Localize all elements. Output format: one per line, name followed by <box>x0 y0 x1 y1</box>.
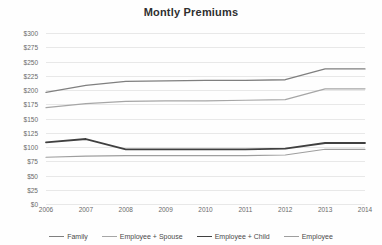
x-axis-tick-label: 2006 <box>39 206 53 213</box>
y-axis-tick-label: $0 <box>31 201 38 208</box>
legend-label: Employee + Child <box>215 233 270 240</box>
x-axis-tick-label: 2013 <box>318 206 332 213</box>
chart-container: Montly Premiums $300$275$250$225$200$175… <box>0 0 382 245</box>
legend-line-icon <box>284 236 299 237</box>
y-axis-tick-label: $225 <box>24 72 38 79</box>
y-axis-tick-label: $50 <box>27 172 38 179</box>
legend-line-icon <box>102 236 117 237</box>
x-axis-tick-label: 2014 <box>358 206 372 213</box>
x-axis-tick-label: 2011 <box>238 206 252 213</box>
y-axis-tick-label: $100 <box>24 144 38 151</box>
x-axis: 200620072008200920102011201220132014 <box>46 206 365 220</box>
legend-item-employee-spouse[interactable]: Employee + Spouse <box>102 233 183 240</box>
series-lines <box>46 33 365 204</box>
y-axis-tick-label: $250 <box>24 58 38 65</box>
gridline <box>46 204 365 205</box>
y-axis-tick-label: $25 <box>27 186 38 193</box>
legend-item-employee-child[interactable]: Employee + Child <box>197 233 270 240</box>
legend-label: Employee <box>302 233 333 240</box>
x-axis-tick-label: 2012 <box>278 206 292 213</box>
series-line-employee <box>46 149 365 157</box>
y-axis-tick-label: $275 <box>24 44 38 51</box>
chart-title: Montly Premiums <box>0 6 382 18</box>
plot-area <box>46 33 365 204</box>
chart-legend: FamilyEmployee + SpouseEmployee + ChildE… <box>0 233 382 240</box>
y-axis-tick-label: $75 <box>27 158 38 165</box>
y-axis-tick-label: $125 <box>24 129 38 136</box>
x-axis-tick-label: 2008 <box>119 206 133 213</box>
y-axis-tick-label: $200 <box>24 87 38 94</box>
x-axis-tick-label: 2009 <box>158 206 172 213</box>
x-axis-tick-label: 2010 <box>198 206 212 213</box>
y-axis-tick-label: $175 <box>24 101 38 108</box>
legend-label: Employee + Spouse <box>120 233 183 240</box>
y-axis: $300$275$250$225$200$175$150$125$100$75$… <box>0 33 42 204</box>
series-line-employee-spouse <box>46 89 365 108</box>
series-line-employee-child <box>46 139 365 149</box>
y-axis-tick-label: $300 <box>24 30 38 37</box>
legend-line-icon <box>197 236 212 237</box>
x-axis-tick-label: 2007 <box>79 206 93 213</box>
y-axis-tick-label: $150 <box>24 115 38 122</box>
legend-item-family[interactable]: Family <box>49 233 88 240</box>
legend-label: Family <box>67 233 88 240</box>
series-line-family <box>46 69 365 92</box>
legend-line-icon <box>49 236 64 237</box>
legend-item-employee[interactable]: Employee <box>284 233 333 240</box>
